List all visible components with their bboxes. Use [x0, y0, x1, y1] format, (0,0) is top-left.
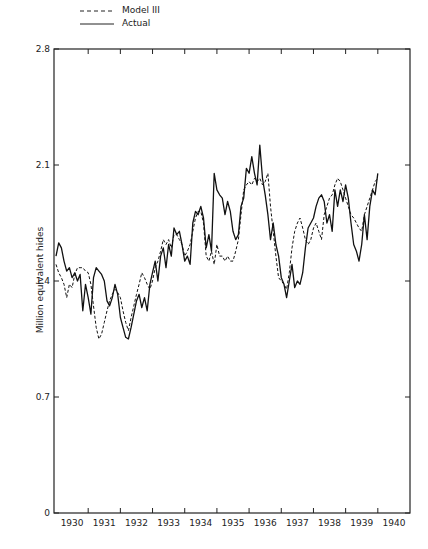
y-tick-label: 2.8	[36, 44, 51, 54]
line-chart: 00.71.42.12.8193019311932193319341935193…	[0, 0, 428, 549]
x-tick-label: 1934	[189, 518, 212, 528]
x-tick-label: 1935	[222, 518, 245, 528]
x-tick-label: 1930	[61, 518, 84, 528]
dashed-line-swatch-icon	[80, 8, 114, 14]
x-tick-label: 1939	[350, 518, 373, 528]
x-tick-label: 1932	[125, 518, 148, 528]
legend-item-model-iii: Model III	[80, 4, 160, 17]
legend-label-model: Model III	[122, 4, 160, 17]
x-tick-label: 1937	[286, 518, 309, 528]
x-tick-label: 1936	[254, 518, 277, 528]
plot-frame	[54, 49, 410, 513]
y-axis-label: Million equivalent hides	[35, 210, 45, 350]
x-tick-label: 1933	[157, 518, 180, 528]
x-tick-label: 1938	[318, 518, 341, 528]
series-line-actual	[56, 145, 378, 339]
y-tick-label: 0	[44, 508, 50, 518]
series-line-model-iii	[56, 173, 378, 339]
legend: Model III Actual	[80, 4, 160, 30]
solid-line-swatch-icon	[80, 21, 114, 27]
legend-label-actual: Actual	[122, 17, 150, 30]
y-tick-label: 2.1	[36, 160, 50, 170]
x-tick-label: 1940	[382, 518, 405, 528]
legend-item-actual: Actual	[80, 17, 160, 30]
y-tick-label: 0.7	[36, 392, 50, 402]
x-tick-label: 1931	[93, 518, 116, 528]
